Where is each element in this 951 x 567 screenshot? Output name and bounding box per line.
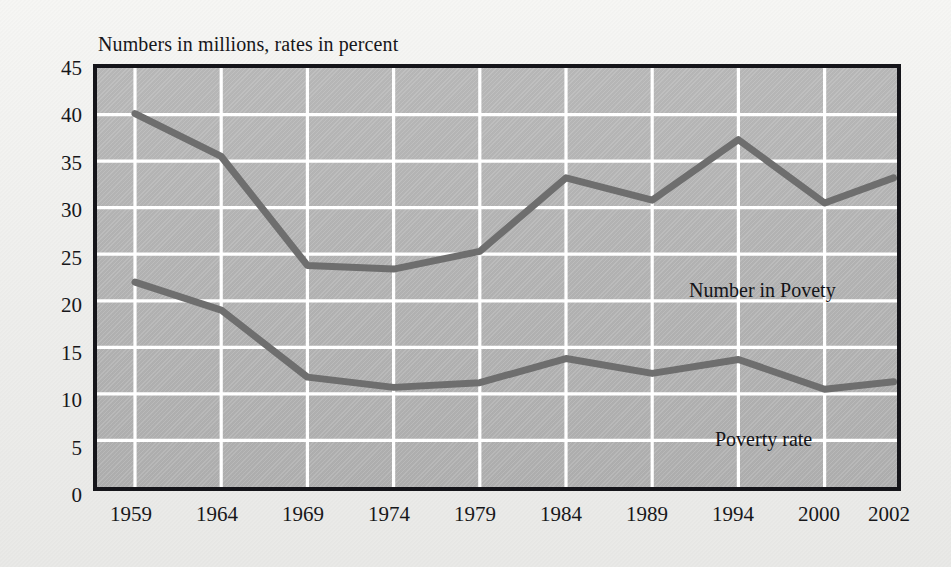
series-label-poverty-rate: Poverty rate xyxy=(715,428,812,451)
chart-title: Numbers in millions, rates in percent xyxy=(98,33,398,56)
y-axis-tick-30: 30 xyxy=(30,198,82,223)
data-series-lines xyxy=(97,68,897,487)
y-axis-tick-10: 10 xyxy=(30,388,82,413)
y-axis-tick-45: 45 xyxy=(30,56,82,81)
x-axis-tick-1959: 1959 xyxy=(110,502,152,527)
x-axis-tick-2002: 2002 xyxy=(868,502,910,527)
series-line-0 xyxy=(135,114,894,270)
plot-inner xyxy=(97,68,897,487)
x-axis-tick-2000: 2000 xyxy=(798,502,840,527)
plot-area: Number in Povety Poverty rate xyxy=(93,64,901,491)
x-axis-tick-1969: 1969 xyxy=(282,502,324,527)
x-axis-tick-1979: 1979 xyxy=(454,502,496,527)
y-axis-tick-15: 15 xyxy=(30,340,82,365)
y-axis-tick-5: 5 xyxy=(30,435,82,460)
x-axis-tick-1974: 1974 xyxy=(368,502,410,527)
y-axis-tick-0: 0 xyxy=(30,483,82,508)
x-axis-tick-1964: 1964 xyxy=(196,502,238,527)
y-axis-tick-25: 25 xyxy=(30,245,82,270)
series-label-number-in-poverty: Number in Povety xyxy=(689,279,836,302)
x-axis-tick-1984: 1984 xyxy=(540,502,582,527)
poverty-line-chart-figure: Numbers in millions, rates in percent 45… xyxy=(0,0,951,567)
x-axis-tick-1994: 1994 xyxy=(712,502,754,527)
y-axis-tick-20: 20 xyxy=(30,293,82,318)
y-axis-tick-40: 40 xyxy=(30,103,82,128)
y-axis-tick-35: 35 xyxy=(30,150,82,175)
x-axis-tick-1989: 1989 xyxy=(626,502,668,527)
